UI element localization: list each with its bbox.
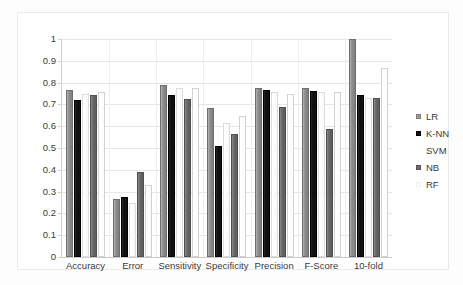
legend-item[interactable]: SVM: [416, 142, 463, 159]
bar-group: [156, 39, 203, 257]
bar[interactable]: [66, 90, 73, 257]
bar[interactable]: [145, 185, 152, 257]
legend-swatch-icon: [416, 182, 421, 187]
bar[interactable]: [279, 107, 286, 257]
legend-swatch-icon: [416, 165, 421, 170]
bar[interactable]: [74, 100, 81, 257]
bar-group: [345, 39, 392, 257]
gridline: [62, 257, 392, 258]
legend-swatch-icon: [416, 148, 421, 153]
bar[interactable]: [334, 92, 341, 257]
bar[interactable]: [263, 90, 270, 257]
x-axis-tick-label: 10-fold: [354, 261, 383, 271]
legend-item-label: K-NN: [426, 129, 449, 139]
y-axis-tick-label: 0.6: [43, 121, 56, 131]
x-axis-tick-label: Specificity: [206, 261, 249, 271]
bar[interactable]: [373, 98, 380, 257]
y-axis-tick-label: 0: [51, 252, 56, 262]
y-axis-tick-label: 0.9: [43, 56, 56, 66]
legend-swatch-icon: [416, 114, 421, 119]
bar[interactable]: [215, 146, 222, 257]
legend-item-label: LR: [426, 112, 438, 122]
bar[interactable]: [121, 197, 128, 257]
y-axis-tick-label: 0.1: [43, 230, 56, 240]
legend-item[interactable]: NB: [416, 159, 463, 176]
y-axis-tick-label: 1: [51, 34, 56, 44]
x-axis-tick-label: Error: [122, 261, 143, 271]
bar[interactable]: [137, 172, 144, 257]
bar[interactable]: [349, 39, 356, 257]
y-axis-tick-mark: [58, 257, 62, 258]
bar-group: [109, 39, 156, 257]
bar[interactable]: [271, 92, 278, 257]
bar[interactable]: [255, 88, 262, 257]
bar[interactable]: [302, 88, 309, 257]
bar[interactable]: [207, 108, 214, 257]
y-axis-tick-label: 0.4: [43, 165, 56, 175]
bar[interactable]: [160, 85, 167, 257]
legend-item[interactable]: RF: [416, 176, 463, 193]
bar[interactable]: [184, 99, 191, 257]
bar[interactable]: [129, 203, 136, 258]
x-axis-tick-label: Sensitivity: [158, 261, 201, 271]
y-axis-tick-label: 0.8: [43, 78, 56, 88]
x-axis-tick-label: Precision: [255, 261, 294, 271]
y-axis-tick-label: 0.2: [43, 209, 56, 219]
chart-legend: LRK-NNSVMNBRF: [416, 108, 463, 193]
bar[interactable]: [381, 68, 388, 257]
bar[interactable]: [239, 116, 246, 257]
plot-area: 00.10.20.30.40.50.60.70.80.91: [62, 39, 392, 257]
bar[interactable]: [176, 88, 183, 257]
legend-item[interactable]: LR: [416, 108, 463, 125]
legend-item-label: RF: [426, 180, 439, 190]
x-axis-tick-label: F-Score: [304, 261, 338, 271]
bar-group: [203, 39, 250, 257]
bar[interactable]: [326, 129, 333, 257]
chart-frame: 00.10.20.30.40.50.60.70.80.91 AccuracyEr…: [17, 12, 449, 270]
bar[interactable]: [287, 94, 294, 258]
bar-group: [62, 39, 109, 257]
bar[interactable]: [318, 92, 325, 257]
bar[interactable]: [223, 123, 230, 257]
bar[interactable]: [168, 95, 175, 257]
x-axis-tick-label: Accuracy: [66, 261, 105, 271]
x-axis-labels: AccuracyErrorSensitivitySpecificityPreci…: [62, 261, 392, 277]
bar[interactable]: [90, 95, 97, 257]
legend-item-label: SVM: [426, 146, 447, 156]
bar[interactable]: [98, 92, 105, 257]
y-axis-tick-label: 0.5: [43, 143, 56, 153]
legend-item[interactable]: K-NN: [416, 125, 463, 142]
y-axis-tick-label: 0.7: [43, 100, 56, 110]
y-axis-tick-label: 0.3: [43, 187, 56, 197]
bar-group: [298, 39, 345, 257]
bar[interactable]: [113, 199, 120, 257]
bars-layer: [62, 39, 392, 257]
legend-item-label: NB: [426, 163, 439, 173]
bar[interactable]: [231, 134, 238, 257]
bar[interactable]: [82, 94, 89, 258]
bar-group: [251, 39, 298, 257]
bar[interactable]: [310, 91, 317, 257]
bar[interactable]: [192, 88, 199, 257]
chart-figure: 00.10.20.30.40.50.60.70.80.91 AccuracyEr…: [0, 0, 463, 285]
bar[interactable]: [365, 98, 372, 257]
legend-swatch-icon: [416, 131, 421, 136]
bar[interactable]: [357, 95, 364, 257]
